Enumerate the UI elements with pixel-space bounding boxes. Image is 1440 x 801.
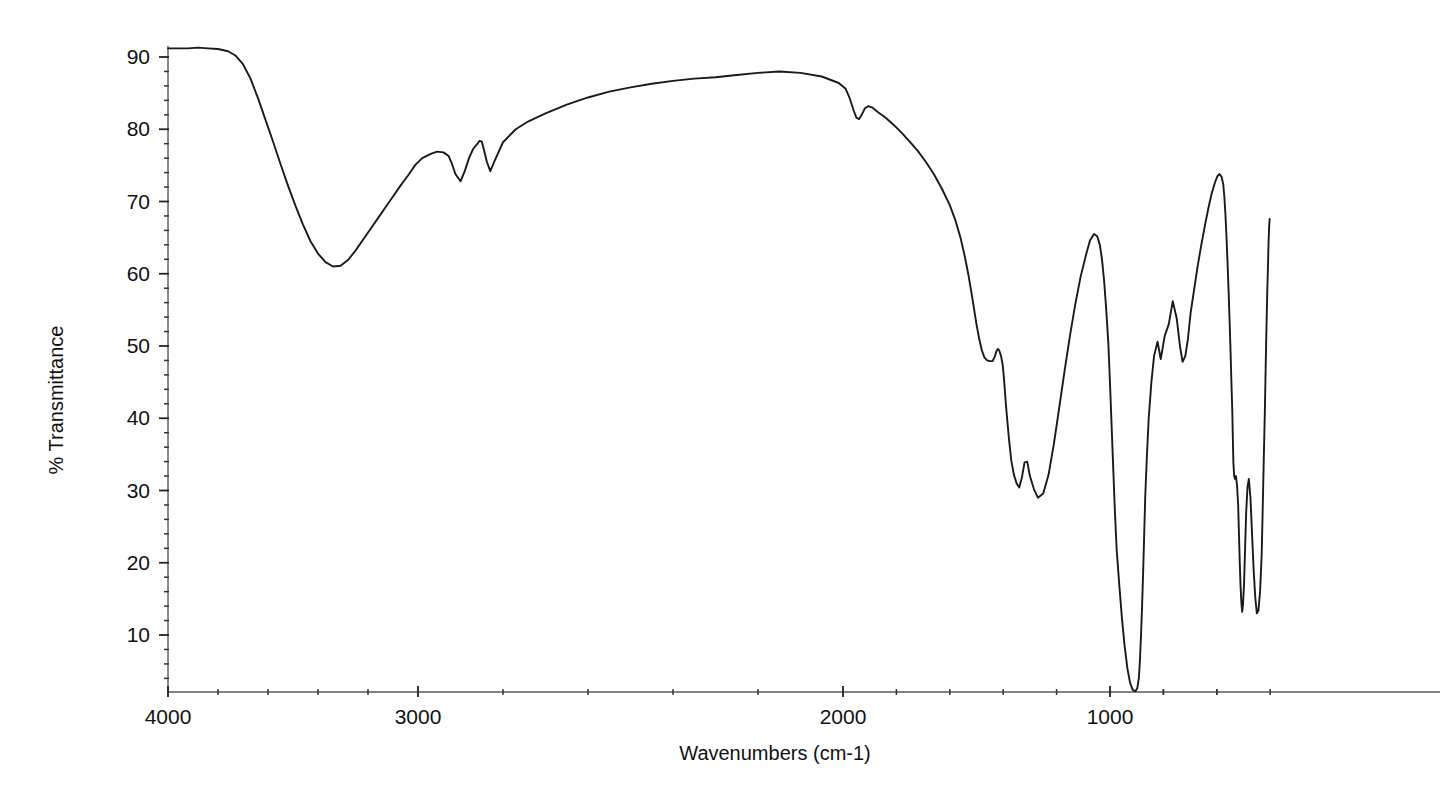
x-tick-label: 2000 bbox=[820, 705, 867, 729]
y-axis-title: % Transmittance bbox=[45, 326, 68, 475]
y-tick-label: 50 bbox=[0, 334, 150, 358]
y-tick-label: 90 bbox=[0, 45, 150, 69]
y-tick-label: 20 bbox=[0, 551, 150, 575]
spectrum-plot bbox=[0, 0, 1440, 801]
x-axis-title: Wavenumbers (cm-1) bbox=[679, 742, 871, 765]
spectrum-curve-group bbox=[168, 48, 1270, 692]
x-tick-label: 3000 bbox=[395, 705, 442, 729]
spectrum-trace bbox=[168, 48, 1270, 692]
y-tick-label: 70 bbox=[0, 190, 150, 214]
y-tick-label: 10 bbox=[0, 623, 150, 647]
y-tick-label: 80 bbox=[0, 117, 150, 141]
x-tick-label: 4000 bbox=[145, 705, 192, 729]
y-tick-label: 40 bbox=[0, 406, 150, 430]
x-tick-label: 1000 bbox=[1087, 705, 1134, 729]
y-tick-label: 30 bbox=[0, 479, 150, 503]
y-tick-label: 60 bbox=[0, 262, 150, 286]
axis-group bbox=[159, 46, 1440, 697]
ir-spectrum-figure: 102030405060708090 4000300020001000 % Tr… bbox=[0, 0, 1440, 801]
